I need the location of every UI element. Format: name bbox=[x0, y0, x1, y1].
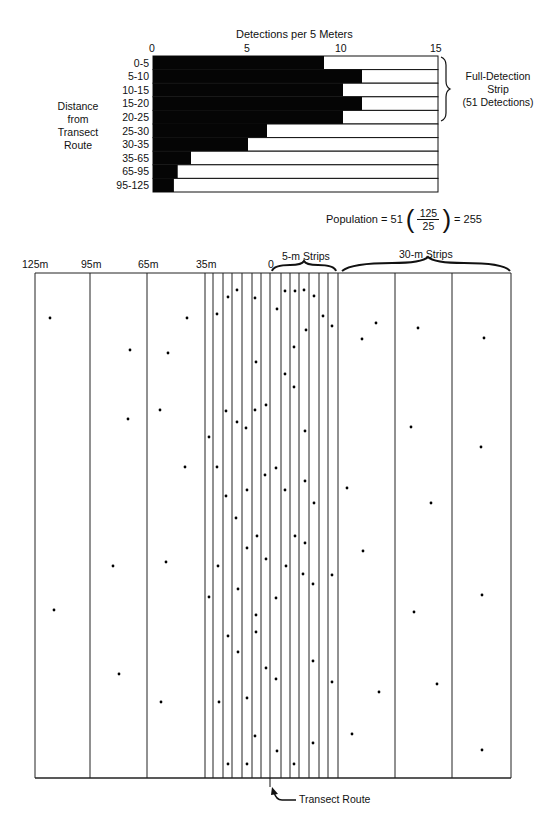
bar-35-65 bbox=[153, 151, 191, 165]
detection-dot bbox=[254, 297, 257, 300]
detection-dot bbox=[410, 426, 413, 429]
detection-dot bbox=[417, 327, 420, 330]
five-m-brace-icon bbox=[272, 261, 336, 271]
detection-dot bbox=[186, 317, 189, 320]
detection-dot bbox=[165, 561, 168, 564]
bar-background bbox=[153, 151, 438, 165]
detection-dot bbox=[118, 673, 121, 676]
detection-dot bbox=[112, 565, 115, 568]
detection-dot bbox=[254, 735, 257, 738]
detection-dot bbox=[245, 427, 248, 430]
detection-dot bbox=[430, 502, 433, 505]
detection-dot bbox=[483, 337, 486, 340]
detection-dot bbox=[375, 322, 378, 325]
detection-dot bbox=[255, 614, 258, 617]
bar-background bbox=[153, 178, 438, 192]
detection-dot bbox=[276, 750, 279, 753]
detection-dot bbox=[275, 678, 278, 681]
detection-dot bbox=[285, 565, 288, 568]
detection-dot bbox=[216, 313, 219, 316]
detection-dot bbox=[127, 418, 130, 421]
detection-dot bbox=[331, 325, 334, 328]
detection-dot bbox=[255, 361, 258, 364]
detection-dot bbox=[312, 660, 315, 663]
detection-dot bbox=[346, 487, 349, 490]
detection-dot bbox=[225, 410, 228, 413]
detection-dot bbox=[331, 681, 334, 684]
detection-dot bbox=[160, 701, 163, 704]
detection-dot bbox=[227, 763, 230, 766]
detection-dot bbox=[129, 349, 132, 352]
detection-dot bbox=[312, 742, 315, 745]
detection-dot bbox=[246, 763, 249, 766]
detection-dot bbox=[293, 763, 296, 766]
detection-dot bbox=[208, 436, 211, 439]
detection-dot bbox=[293, 386, 296, 389]
detection-dot bbox=[264, 474, 267, 477]
detection-dot bbox=[235, 517, 238, 520]
detection-dot bbox=[227, 296, 230, 299]
detection-dot bbox=[237, 588, 240, 591]
detection-dot bbox=[362, 550, 365, 553]
detection-dot bbox=[49, 317, 52, 320]
detection-dot bbox=[159, 409, 162, 412]
detection-dot bbox=[293, 346, 296, 349]
detection-dot bbox=[237, 651, 240, 654]
detection-dot bbox=[361, 338, 364, 341]
detection-dot bbox=[265, 558, 268, 561]
detection-dot bbox=[217, 565, 220, 568]
detection-dot bbox=[480, 446, 483, 449]
detection-dot bbox=[481, 594, 484, 597]
detection-dot bbox=[322, 315, 325, 318]
bar-20-25 bbox=[153, 110, 343, 124]
detection-dot bbox=[255, 631, 258, 634]
detection-dot bbox=[303, 289, 306, 292]
bar-10-15 bbox=[153, 83, 343, 97]
detection-dot bbox=[436, 683, 439, 686]
detection-dot bbox=[304, 480, 307, 483]
detection-dot bbox=[236, 421, 239, 424]
detection-dot bbox=[246, 697, 249, 700]
detection-dot bbox=[304, 542, 307, 545]
detection-dot bbox=[481, 749, 484, 752]
bar-30-35 bbox=[153, 138, 248, 152]
detection-dot bbox=[184, 466, 187, 469]
detection-dot bbox=[216, 466, 219, 469]
detection-dot bbox=[284, 489, 287, 492]
detection-dot bbox=[225, 495, 228, 498]
thirty-m-brace-icon bbox=[342, 257, 510, 271]
detection-dot bbox=[284, 373, 287, 376]
detection-dot bbox=[313, 502, 316, 505]
bar-95-125 bbox=[153, 178, 174, 192]
detection-dot bbox=[275, 597, 278, 600]
detection-dot bbox=[294, 290, 297, 293]
detection-dot bbox=[227, 635, 230, 638]
detection-dot bbox=[236, 289, 239, 292]
bar-15-20 bbox=[153, 97, 362, 111]
detection-dot bbox=[275, 467, 278, 470]
bar-5-10 bbox=[153, 70, 362, 84]
bar-background bbox=[153, 165, 438, 179]
diagram-graphics bbox=[0, 0, 546, 819]
arrow-head-icon bbox=[271, 787, 278, 795]
detection-dot bbox=[246, 547, 249, 550]
detection-dot bbox=[265, 404, 268, 407]
detection-dot bbox=[331, 574, 334, 577]
detection-dot bbox=[53, 609, 56, 612]
detection-dot bbox=[294, 535, 297, 538]
detection-dot bbox=[167, 352, 170, 355]
brace-icon bbox=[441, 57, 450, 121]
detection-dot bbox=[246, 489, 249, 492]
detection-dot bbox=[413, 611, 416, 614]
detection-dot bbox=[313, 295, 316, 298]
detection-dot bbox=[256, 535, 259, 538]
bar-25-30 bbox=[153, 124, 267, 138]
detection-dot bbox=[218, 701, 221, 704]
bar-65-95 bbox=[153, 165, 178, 179]
detection-dot bbox=[254, 409, 257, 412]
detection-dot bbox=[302, 573, 305, 576]
bar-0-5 bbox=[153, 56, 324, 70]
detection-dot bbox=[276, 308, 279, 311]
detection-dot bbox=[305, 329, 308, 332]
detection-dot bbox=[265, 667, 268, 670]
